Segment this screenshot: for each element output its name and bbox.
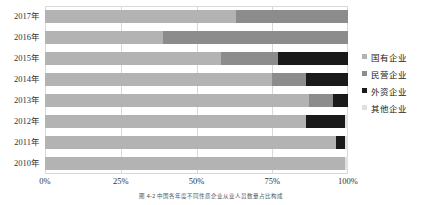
bar-segment: [345, 115, 348, 128]
bar-segment: [45, 94, 309, 107]
bar-track: [45, 157, 348, 170]
y-axis-label: 2015年: [14, 48, 40, 69]
legend-swatch-icon: [362, 105, 367, 110]
bar-segment: [236, 10, 348, 23]
bar-segment: [163, 31, 348, 44]
bar-segment: [306, 73, 348, 86]
x-axis-tick-label: 75%: [264, 176, 280, 186]
bar-segment: [345, 136, 348, 149]
stacked-bar-chart: 2017年2016年2015年2014年2013年2012年2011年2010年…: [0, 0, 422, 205]
x-axis-tick-label: 0%: [39, 176, 50, 186]
x-axis: 0%25%50%75%100%: [45, 176, 348, 188]
legend-label: 国有企业: [371, 51, 407, 63]
y-axis-label: 2016年: [14, 27, 40, 48]
legend-item[interactable]: 民营企业: [362, 65, 422, 82]
bar-track: [45, 136, 348, 149]
bar-segment: [272, 73, 305, 86]
legend-item[interactable]: 外资企业: [362, 82, 422, 99]
legend-label: 外资企业: [371, 85, 407, 97]
bar-segment: [309, 94, 333, 107]
x-axis-tick-label: 25%: [113, 176, 129, 186]
bar-segment: [278, 52, 348, 65]
bar-row: [45, 69, 348, 90]
legend-label: 其他企业: [371, 102, 407, 114]
bar-row: [45, 132, 348, 153]
bar-track: [45, 31, 348, 44]
legend-swatch-icon: [362, 54, 367, 59]
bar-row: [45, 48, 348, 69]
bar-segment: [45, 157, 345, 170]
x-axis-tick-label: 50%: [189, 176, 205, 186]
legend-item[interactable]: 其他企业: [362, 99, 422, 116]
bar-track: [45, 115, 348, 128]
legend-label: 民营企业: [371, 68, 407, 80]
bar-series-container: [45, 6, 348, 174]
bar-segment: [345, 157, 348, 170]
y-axis: 2017年2016年2015年2014年2013年2012年2011年2010年: [0, 6, 43, 174]
legend-swatch-icon: [362, 71, 367, 76]
bar-track: [45, 10, 348, 23]
y-axis-label: 2010年: [14, 153, 40, 174]
bar-row: [45, 27, 348, 48]
bar-segment: [45, 136, 336, 149]
bar-track: [45, 73, 348, 86]
bar-segment: [45, 52, 221, 65]
bar-segment: [45, 10, 236, 23]
y-axis-label: 2011年: [14, 132, 40, 153]
bar-segment: [45, 73, 272, 86]
y-axis-label: 2013年: [14, 90, 40, 111]
bar-segment: [221, 52, 279, 65]
bar-row: [45, 111, 348, 132]
y-axis-label: 2017年: [14, 6, 40, 27]
bar-row: [45, 90, 348, 111]
y-axis-label: 2014年: [14, 69, 40, 90]
bar-track: [45, 94, 348, 107]
y-axis-label: 2012年: [14, 111, 40, 132]
bar-segment: [336, 136, 345, 149]
bar-row: [45, 6, 348, 27]
bar-segment: [333, 94, 348, 107]
figure-caption: 图 4-2 中国各年度不同性质企业从业人员数量占比构成: [0, 192, 422, 200]
chart-legend: 国有企业民营企业外资企业其他企业: [362, 48, 422, 116]
bar-segment: [306, 115, 345, 128]
bar-row: [45, 153, 348, 174]
legend-item[interactable]: 国有企业: [362, 48, 422, 65]
bar-track: [45, 52, 348, 65]
x-axis-tick-label: 100%: [338, 176, 358, 186]
bar-segment: [45, 31, 163, 44]
bar-segment: [45, 115, 306, 128]
legend-swatch-icon: [362, 88, 367, 93]
